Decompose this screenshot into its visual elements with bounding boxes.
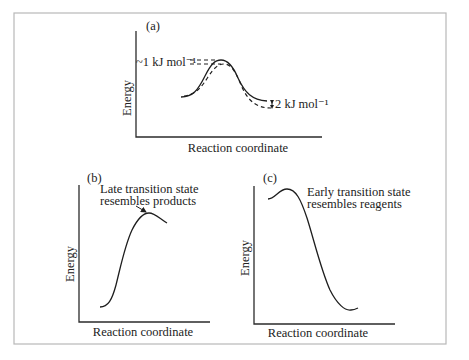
panel-c-label: (c) <box>263 171 277 185</box>
panel-a-label: (a) <box>146 19 160 33</box>
panel-c-ylabel: Energy <box>238 239 252 276</box>
panel-b-ylabel: Energy <box>63 245 77 282</box>
panel-c-xlabel: Reaction coordinate <box>268 326 369 340</box>
panel-c-annotation-line2: resembles reagents <box>307 197 402 211</box>
reaction-energy-diagram: (a) Energy Reaction coordinate ~1 kJ mol… <box>0 0 469 360</box>
panel-a-barrier-annotation: ~1 kJ mol⁻¹ <box>136 55 196 69</box>
panel-a-product-annotation: 2 kJ mol⁻¹ <box>275 97 329 111</box>
panel-a-xlabel: Reaction coordinate <box>188 141 289 155</box>
panel-b-xlabel: Reaction coordinate <box>93 325 194 339</box>
panel-b-annotation-line2: resembles products <box>100 194 196 208</box>
panel-a-ylabel: Energy <box>120 79 134 116</box>
